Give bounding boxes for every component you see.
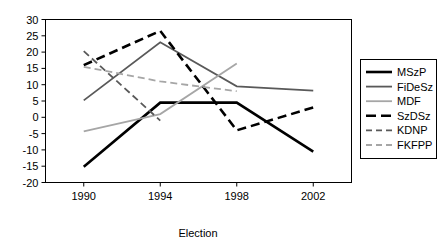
legend-label-fkfpp: FKFPP <box>397 139 432 151</box>
y-axis-ticks <box>42 20 46 183</box>
y-tick-label: 10 <box>26 79 38 91</box>
legend-label-fidesz: FiDeSz <box>397 81 433 93</box>
x-axis-ticks <box>84 183 314 187</box>
y-tick-label: -10 <box>23 144 39 156</box>
data-series-group <box>84 31 314 167</box>
x-tick-label: 2002 <box>301 190 325 202</box>
y-tick-label: 0 <box>32 111 38 123</box>
x-tick-label: 1990 <box>72 190 96 202</box>
legend-items-group: MSzPFiDeSzMDFSzDSzKDNPFKFPP <box>366 66 433 151</box>
series-line-mszp <box>84 103 314 167</box>
y-tick-label: 20 <box>26 46 38 58</box>
line-chart-figure: 302520151050-5-10-15-20 1990199419982002… <box>0 0 443 244</box>
plot-area-frame <box>46 20 352 183</box>
y-tick-label: 15 <box>26 62 38 74</box>
y-tick-label: -5 <box>29 128 39 140</box>
series-line-kdnp <box>84 51 161 120</box>
chart-canvas: 302520151050-5-10-15-20 1990199419982002… <box>0 0 443 244</box>
legend-label-mdf: MDF <box>397 95 421 107</box>
x-tick-label: 1998 <box>225 190 249 202</box>
legend-label-szdsz: SzDSz <box>397 110 431 122</box>
series-line-szdsz <box>84 31 314 130</box>
x-tick-label: 1994 <box>148 190 172 202</box>
legend-label-kdnp: KDNP <box>397 124 428 136</box>
y-tick-label: 5 <box>32 95 38 107</box>
legend-label-mszp: MSzP <box>397 66 426 78</box>
y-tick-label: 30 <box>26 14 38 26</box>
x-axis-title: Election <box>178 227 217 239</box>
series-line-fidesz <box>84 42 314 100</box>
y-axis-tick-labels: 302520151050-5-10-15-20 <box>23 14 39 189</box>
y-tick-label: 25 <box>26 30 38 42</box>
y-tick-label: -20 <box>23 177 39 189</box>
y-tick-label: -15 <box>23 160 39 172</box>
x-axis-tick-labels: 1990199419982002 <box>72 190 326 202</box>
